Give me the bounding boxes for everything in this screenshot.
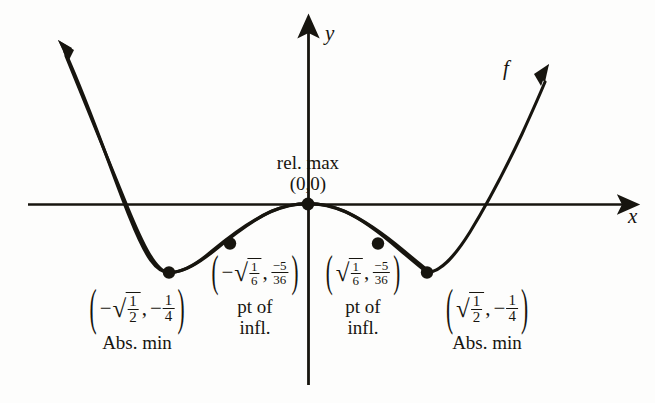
point-inflection-left [224,237,236,249]
close-paren: ) [292,247,299,298]
coordinate-comma: , [364,261,369,285]
fraction-one-sixth: 1 6 [351,260,362,288]
relative-max-annotation: rel. max (0,0) [277,152,339,195]
coordinate-comma: , [262,261,267,285]
fraction-neg-five-thirtysixths: −5 36 [271,259,289,287]
relative-max-line2: (0,0) [277,173,339,194]
sqrt-icon: √ 1 6 [336,258,363,288]
sqrt-icon: √ 1 6 [234,258,261,288]
fraction-one-sixth: 1 6 [249,260,260,288]
left-inflection-caption-line2: infl. [208,317,301,338]
radicand: 1 2 [125,292,141,326]
fraction-numerator: 1 [127,294,139,309]
right-abs-min-caption: Abs. min [443,332,531,353]
fraction-numerator: 1 [506,293,518,308]
radicand: 1 6 [247,258,262,288]
left-abs-min-coordinates: ( − √ 1 2 , − 1 4 ) [87,292,188,326]
fraction-denominator: 4 [163,308,175,324]
open-paren: ( [211,247,218,298]
left-inflection-x-sign: − [221,261,233,285]
sqrt-icon: √ 1 2 [456,292,484,326]
y-axis-label: y [325,22,334,46]
coordinate-comma: , [485,297,490,321]
left-inflection-caption-line1: pt of [208,296,301,317]
coordinate-comma: , [142,297,147,321]
point-abs-min-right [421,266,433,278]
radical-glyph: √ [113,296,127,321]
fraction-denominator: 36 [271,272,288,286]
fraction-one-fourth: 1 4 [163,293,175,325]
fraction-one-half: 1 2 [471,294,483,326]
fraction-numerator: 1 [249,260,260,273]
fraction-numerator: −5 [372,259,390,272]
left-inflection-annotation: ( − √ 1 6 , −5 36 ) pt of infl. [208,258,301,338]
right-inflection-annotation: ( √ 1 6 , −5 36 ) pt of infl. [323,258,403,338]
right-inflection-coordinates: ( √ 1 6 , −5 36 ) [323,258,403,288]
radical-glyph: √ [456,296,470,321]
fraction-denominator: 2 [127,309,139,325]
fraction-numerator: 1 [471,294,483,309]
function-curve [65,52,428,273]
calculus-curve-figure: y x f rel. max (0,0) ( − √ 1 2 , − 1 [0,0,655,403]
right-inflection-caption-line1: pt of [323,296,403,317]
point-rel-max-origin [302,198,315,211]
left-abs-min-caption: Abs. min [87,332,188,353]
point-abs-min-left [163,266,175,278]
curve-arrow-right [534,64,549,86]
open-paren: ( [446,280,453,338]
point-inflection-right [372,237,384,249]
right-abs-min-coordinates: ( √ 1 2 , − 1 4 ) [443,292,531,326]
function-curve-label: f [503,57,509,81]
right-inflection-caption-line2: infl. [323,317,403,338]
right-abs-min-annotation: ( √ 1 2 , − 1 4 ) Abs. min [443,292,531,353]
x-axis-label: x [628,205,637,229]
left-inflection-coordinates: ( − √ 1 6 , −5 36 ) [208,258,301,288]
fraction-denominator: 36 [373,272,390,286]
sqrt-icon: √ 1 2 [113,292,141,326]
radicand: 1 6 [349,258,364,288]
open-paren: ( [326,247,333,298]
fraction-numerator: 1 [163,293,175,308]
fraction-denominator: 6 [249,273,260,287]
left-abs-min-x-sign: − [100,297,112,321]
open-paren: ( [90,280,97,338]
radicand: 1 2 [469,292,485,326]
close-paren: ) [521,280,528,338]
close-paren: ) [177,280,184,338]
fraction-numerator: −5 [271,259,289,272]
close-paren: ) [393,247,400,298]
fraction-one-fourth: 1 4 [506,293,518,325]
radical-glyph: √ [336,260,350,285]
fraction-denominator: 2 [471,309,483,325]
fraction-one-half: 1 2 [127,294,139,326]
left-abs-min-y-sign: − [150,297,162,321]
radical-glyph: √ [234,260,248,285]
fraction-denominator: 6 [351,273,362,287]
fraction-neg-five-thirtysixths: −5 36 [372,259,390,287]
relative-max-line1: rel. max [277,152,339,173]
fraction-numerator: 1 [351,260,362,273]
fraction-denominator: 4 [506,308,518,324]
left-abs-min-annotation: ( − √ 1 2 , − 1 4 ) Abs. min [87,292,188,353]
right-abs-min-y-sign: − [494,297,506,321]
